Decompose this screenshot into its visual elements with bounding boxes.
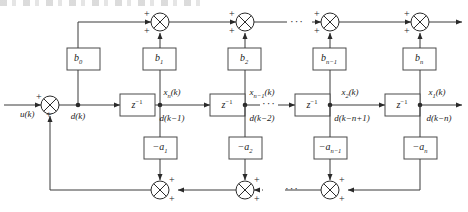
adder-top-1 [151, 13, 169, 31]
plus-bottom-2-bottom: + [254, 194, 260, 204]
gain-label-b2: b2 [240, 53, 248, 66]
plus-input-left: + [36, 92, 42, 102]
plus-top-3-bottom: + [314, 26, 320, 36]
signal-label-delayed-4: d(k−n) [426, 114, 451, 123]
gain-label-bn-1: bn−1 [321, 53, 337, 66]
delay-label-4: z−1 [397, 99, 408, 110]
adder-top-4 [411, 13, 429, 31]
adder-top-2 [236, 13, 254, 31]
ellipsis-middle: ··· [262, 98, 276, 109]
signal-label-state-2: x2(k) [341, 88, 358, 99]
signal-label-state-n: xn(k) [163, 88, 180, 99]
signal-label-input: u(k) [20, 110, 35, 119]
signal-label-dk: d(k) [71, 112, 86, 121]
adder-bottom-1 [151, 181, 169, 199]
plus-bottom-1-bottom: + [169, 194, 175, 204]
gain-label-an: −an [413, 142, 428, 155]
signal-label-delayed-2: d(k−2) [249, 114, 274, 123]
figure-canvas: b0 b1 b2 bn−1 bn z−1 z−1 z−1 z−1 −a1 −a2… [0, 0, 468, 212]
ellipsis-bottom: ··· [285, 183, 299, 194]
adder-bottom-2 [236, 181, 254, 199]
plus-top-2-bottom: + [229, 26, 235, 36]
gain-label-a1: −a1 [153, 142, 168, 155]
plus-input-bottom: + [46, 110, 52, 120]
delay-label-2: z−1 [222, 99, 233, 110]
plus-bottom-3-bottom: + [339, 194, 345, 204]
plus-bottom-2-top: + [254, 175, 260, 185]
gain-label-b1: b1 [155, 53, 163, 66]
delay-label-3: z−1 [307, 99, 318, 110]
gain-label-a2: −a2 [238, 142, 253, 155]
signal-label-state-1: x1(k) [428, 88, 445, 99]
plus-top-3-left: + [314, 9, 320, 19]
gain-label-bn: bn [415, 53, 423, 66]
adder-top-3 [321, 13, 339, 31]
adder-bottom-3 [321, 181, 339, 199]
plus-bottom-1-top: + [169, 175, 175, 185]
plus-top-4-left: + [404, 9, 410, 19]
signal-label-delayed-1: d(k−1) [159, 114, 184, 123]
signal-label-delayed-3: d(k−n+1) [334, 114, 370, 123]
plus-top-2-left: + [229, 9, 235, 19]
gain-label-an-1: −an−1 [319, 142, 342, 155]
plus-top-4-bottom: + [404, 26, 410, 36]
ellipsis-top: ··· [290, 16, 304, 27]
gain-label-b0: b0 [74, 53, 82, 66]
feedback-summing-bus [50, 116, 321, 190]
gain-box-b0 [67, 48, 100, 70]
delay-label-1: z−1 [132, 99, 143, 110]
plus-top-1-bottom: + [144, 26, 150, 36]
plus-bottom-3-top: + [339, 175, 345, 185]
plus-top-1-left: + [144, 9, 150, 19]
